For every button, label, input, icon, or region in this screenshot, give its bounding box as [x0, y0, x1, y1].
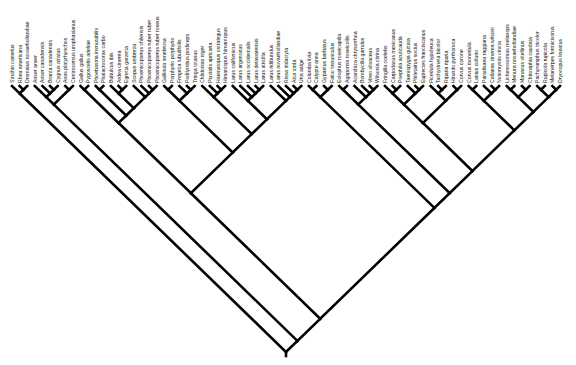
taxon-label: Gypaetus barbatus: [321, 39, 327, 83]
taxon-label: Notiomystis cincta: [496, 41, 502, 83]
taxon-label: Phoenicopterus ruber roseus: [154, 16, 160, 83]
taxon-label: Podilymbus podiceps: [184, 34, 190, 83]
taxon-label: Acanthiza chrysorrhoa: [352, 31, 358, 83]
branch: [518, 97, 533, 112]
taxon-label: Dromaius novaehollandiae: [24, 22, 30, 83]
branch: [404, 93, 415, 104]
branch: [54, 104, 298, 340]
branch: [23, 86, 27, 90]
taxon-label: Chlidonias niger: [199, 46, 205, 83]
branch: [343, 90, 358, 105]
branch: [511, 86, 515, 90]
branch: [210, 86, 218, 93]
branch: [233, 86, 248, 101]
branch: [404, 104, 423, 122]
branch: [297, 319, 320, 341]
branch: [556, 86, 560, 90]
taxon-label: Rhea americana: [17, 45, 23, 83]
branch: [541, 86, 545, 90]
branch: [374, 86, 378, 90]
branch: [54, 86, 58, 90]
taxon-label: Larus atricilla: [260, 52, 266, 83]
taxon-label: Paradisaea raggiana: [481, 35, 487, 83]
branch: [191, 153, 233, 194]
taxon-label: Pygoscelis adeliae: [85, 40, 91, 83]
taxon-label: Struthio camelus: [9, 44, 15, 83]
branch: [442, 86, 446, 90]
taxon-label: Branta canadensis: [47, 40, 53, 83]
taxon-label: Melanerpes formicivorus: [549, 26, 555, 83]
branch: [191, 86, 195, 90]
taxon-label: Ficedula hypoleuca: [428, 38, 434, 83]
taxon-label: Ardea cinerea: [116, 51, 122, 83]
taxon-label: Larus californicus: [230, 43, 236, 83]
taxon-label: Uria aalge: [298, 59, 304, 83]
taxon-label: Corvus monedula: [466, 42, 472, 83]
branch: [495, 86, 499, 90]
taxon-label: Larus argentatus: [237, 44, 243, 83]
branch: [221, 86, 225, 90]
taxon-label: Euplectes franciscanus: [420, 30, 426, 83]
branch: [313, 90, 321, 97]
branch: [297, 86, 301, 90]
branch: [100, 86, 104, 90]
taxon-label: Dryocopus lineatus: [557, 39, 563, 83]
branch: [450, 171, 473, 193]
taxon-label: Scopus umbretta: [131, 44, 137, 83]
taxon-label: Cygnus atratus: [55, 48, 61, 83]
branch: [141, 86, 149, 93]
branch: [419, 86, 423, 90]
branch: [511, 90, 519, 97]
taxon-label: Lanius collurio: [473, 50, 479, 83]
branch: [248, 101, 267, 119]
taxon-label: Gallus gallus: [78, 53, 84, 83]
taxon-label: Philetairus socius: [412, 43, 418, 83]
taxon-label: Pachyramphus tricolor: [534, 31, 540, 83]
branch: [472, 130, 514, 171]
branch: [408, 86, 416, 93]
taxon-label: Centrocercus urophasianus: [70, 20, 76, 83]
branch: [252, 119, 267, 134]
taxon-label: Falco tinnunculus: [329, 43, 335, 83]
taxon-label: Phoebastria immutabilis: [93, 28, 99, 83]
branch: [248, 86, 256, 93]
branch: [484, 101, 514, 131]
branch: [69, 86, 73, 90]
taxon-label: Phoenicopterus chilensis: [138, 26, 144, 83]
taxon-label: Haematopus ostralegus: [215, 28, 221, 83]
taxon-label: Fregetta tubulifoilis: [176, 39, 182, 83]
branch: [526, 86, 530, 90]
taxon-label: Alca torda: [291, 60, 297, 83]
taxon-label: Menura novaehollandiae: [511, 26, 517, 83]
branch: [328, 86, 332, 90]
branch: [271, 86, 286, 101]
branch: [518, 90, 526, 97]
branch: [12, 86, 20, 93]
branch: [438, 93, 446, 100]
taxon-label: Vireo olivaceus: [367, 48, 373, 83]
branch: [100, 90, 127, 116]
taxon-label: Egretta garzetta: [123, 46, 129, 83]
branch: [514, 112, 533, 130]
branch: [134, 97, 145, 108]
taxon-label: Columba livia: [306, 52, 312, 83]
taxon-label: Gallinula tenebrosa: [161, 38, 167, 83]
taxon-label: Taeniopygia guttata: [405, 38, 411, 83]
branch: [457, 86, 461, 90]
branch: [179, 93, 187, 100]
branch: [472, 90, 483, 101]
taxon-label: Pluvialis apricaria: [207, 43, 213, 83]
taxon-label: Anser canadensis: [39, 42, 45, 83]
branch: [179, 86, 187, 93]
branch: [233, 134, 252, 152]
branch: [84, 90, 118, 123]
branch: [286, 341, 297, 352]
branch: [362, 86, 370, 93]
taxon-label: Himantopus himantopus: [222, 27, 228, 83]
branch: [119, 93, 134, 108]
taxon-label: Porphyrio porphyrio: [169, 38, 175, 83]
taxon-label: Hirundo pyrrhonota: [450, 39, 456, 83]
taxon-label: Anas platyrhynchos: [62, 38, 68, 83]
branch: [434, 193, 449, 208]
taxon-label: Carpodacus mexicanus: [390, 29, 396, 83]
